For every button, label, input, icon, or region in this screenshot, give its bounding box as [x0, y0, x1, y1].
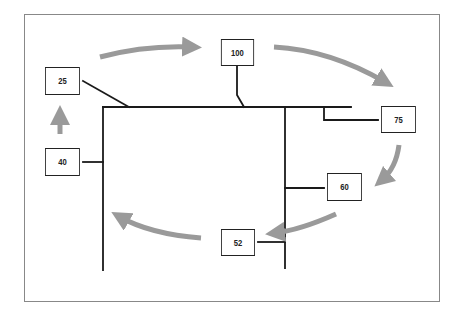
- arrow-75-to-60: [382, 145, 399, 180]
- arrow-100-to-75: [274, 47, 385, 82]
- connector-75: [324, 107, 378, 120]
- node-100: 100: [221, 39, 254, 66]
- diagram-canvas: 25 100 75 60 52 40: [0, 0, 459, 316]
- node-60: 60: [327, 173, 362, 201]
- node-75: 75: [381, 106, 416, 133]
- node-52: 52: [221, 229, 255, 256]
- connector-100: [237, 66, 244, 107]
- flow-arrows: [60, 47, 399, 238]
- arrow-25-to-100: [100, 47, 192, 57]
- arrow-52-to-left: [120, 217, 201, 238]
- node-40: 40: [45, 148, 80, 176]
- node-25: 25: [45, 67, 80, 95]
- connector-25: [83, 81, 129, 107]
